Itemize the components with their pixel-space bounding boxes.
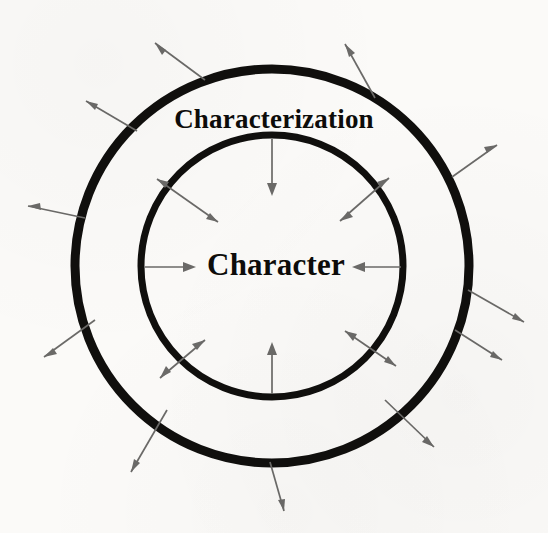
outer-arrow-wnw — [28, 203, 85, 218]
characterization-label: Characterization — [0, 103, 548, 135]
inner-arrow-top-inward — [267, 139, 277, 196]
character-label: Character — [4, 247, 548, 283]
outer-arrow-e — [468, 290, 524, 322]
diagram-canvas: Characterization Character — [0, 0, 548, 533]
inner-arrow-bottom-inward — [267, 342, 277, 394]
outer-arrow-s — [270, 462, 285, 511]
outer-arrow-ene — [452, 145, 497, 177]
inner-double-arrow-nw — [157, 179, 218, 222]
outer-arrow-nnw — [155, 43, 205, 80]
inner-double-arrow-se — [345, 331, 396, 366]
outer-arrow-ese — [455, 330, 502, 360]
